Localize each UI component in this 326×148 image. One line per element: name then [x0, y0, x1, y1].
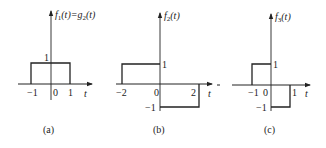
y-tick-1: 1	[162, 59, 167, 70]
y-tick-1: 1	[273, 59, 278, 70]
y-tick-1: 1	[44, 52, 49, 63]
positive-pulse	[252, 64, 271, 85]
x-tick-neg1: −1	[27, 87, 38, 98]
caption-b: (b)	[153, 124, 165, 136]
x-tick-0: 0	[263, 87, 268, 98]
x-axis-label: t	[84, 88, 87, 99]
x-tick-0: 0	[53, 87, 58, 98]
y-axis-label: f3(t)	[275, 11, 291, 24]
positive-pulse	[122, 64, 160, 84]
panel-a: f1(t)=g2(t) 1 −1 0 1 t (a)	[18, 9, 96, 136]
negative-pulse	[271, 85, 290, 107]
caption-a: (a)	[43, 124, 54, 136]
x-axis-label: t	[208, 88, 211, 99]
y-axis-label: f1(t)=g2(t)	[55, 9, 96, 22]
x-tick-neg1: −1	[248, 87, 259, 98]
signal-waveforms-figure: f1(t)=g2(t) 1 −1 0 1 t (a) f2(t) 1 −1 −2…	[0, 0, 326, 148]
panel-c: f3(t) 1 −1 −1 0 1 t (c)	[217, 11, 310, 136]
x-tick-0: 0	[154, 87, 159, 98]
x-tick-neg2: −2	[116, 87, 127, 98]
caption-c: (c)	[264, 124, 275, 136]
x-tick-2: 2	[191, 87, 196, 98]
y-axis-label: f2(t)	[164, 10, 180, 23]
x-tick-1: 1	[292, 87, 297, 98]
panel-b: f2(t) 1 −1 −2 0 2 t (b)	[116, 10, 212, 136]
x-axis-label: t	[305, 88, 308, 99]
y-tick-neg1: −1	[256, 102, 267, 113]
y-tick-neg1: −1	[145, 102, 156, 113]
x-tick-1: 1	[68, 87, 73, 98]
pulse-waveform	[31, 63, 70, 84]
